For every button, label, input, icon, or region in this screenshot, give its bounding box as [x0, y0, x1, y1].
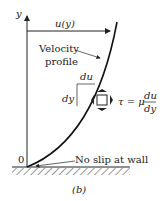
no-slip-leader — [36, 161, 75, 166]
fluid-element — [97, 95, 107, 105]
du-label: du — [80, 72, 93, 82]
caption: (b) — [72, 185, 86, 195]
tau-numerator: du — [144, 91, 157, 101]
origin-label: 0 — [18, 155, 24, 165]
tau-denominator: dy — [144, 104, 156, 114]
wall-hatch — [12, 168, 130, 175]
tau-lhs: τ = μ — [118, 97, 145, 107]
velocity-profile-diagram: y u(y) Velocity profile du dy τ = μ du d… — [0, 0, 166, 201]
y-axis-label: y — [16, 9, 22, 19]
no-slip-label: No slip at wall — [75, 155, 148, 165]
dy-label: dy — [62, 94, 74, 104]
u-of-y-label: u(y) — [55, 19, 75, 29]
velocity-label: Velocity — [39, 44, 79, 54]
profile-label: profile — [45, 57, 78, 67]
